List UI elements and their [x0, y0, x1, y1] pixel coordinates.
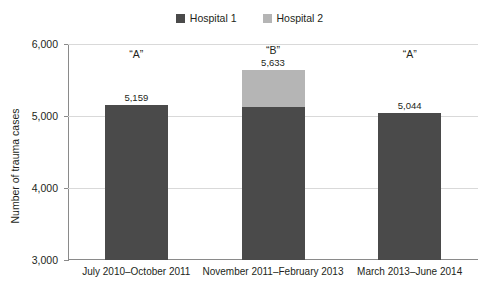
- y-tick-mark: [64, 44, 68, 45]
- bar-segment-hospital-1[interactable]: [378, 113, 441, 260]
- y-axis-title: Number of trauma cases: [9, 58, 23, 274]
- bar-segment-hospital-1[interactable]: [242, 107, 305, 260]
- legend-label-hospital-2: Hospital 2: [277, 13, 324, 24]
- bar-annotation-label: “B”: [233, 44, 313, 56]
- legend-label-hospital-1: Hospital 1: [190, 13, 237, 24]
- bar-segment-hospital-2[interactable]: [242, 70, 305, 107]
- y-tick-mark: [64, 116, 68, 117]
- y-tick-label: 4,000: [14, 182, 58, 194]
- legend-item-hospital-1[interactable]: Hospital 1: [176, 13, 237, 24]
- plot-area: 3,0004,0005,0006,0005,159“A”5,633“B”5,04…: [68, 44, 478, 260]
- y-tick-label: 3,000: [14, 254, 58, 266]
- bar-segment-hospital-1[interactable]: [105, 105, 168, 260]
- y-tick-label: 5,000: [14, 110, 58, 122]
- chart-legend: Hospital 1 Hospital 2: [0, 13, 499, 24]
- chart-container: Hospital 1 Hospital 2 Number of trauma c…: [0, 0, 499, 298]
- bar-1[interactable]: [105, 105, 168, 260]
- bar-value-label: 5,044: [370, 100, 450, 111]
- bar-value-label: 5,633: [233, 57, 313, 68]
- legend-item-hospital-2[interactable]: Hospital 2: [263, 13, 324, 24]
- legend-swatch-hospital-1: [176, 14, 185, 23]
- y-tick-mark: [64, 188, 68, 189]
- y-tick-label: 6,000: [14, 38, 58, 50]
- bar-annotation-label: “A”: [370, 48, 450, 60]
- x-tick-label: March 2013–June 2014: [320, 266, 499, 277]
- bar-2[interactable]: [242, 70, 305, 260]
- y-tick-mark: [64, 260, 68, 261]
- legend-swatch-hospital-2: [263, 14, 272, 23]
- bar-value-label: 5,159: [96, 92, 176, 103]
- bar-3[interactable]: [378, 113, 441, 260]
- bar-annotation-label: “A”: [96, 48, 176, 60]
